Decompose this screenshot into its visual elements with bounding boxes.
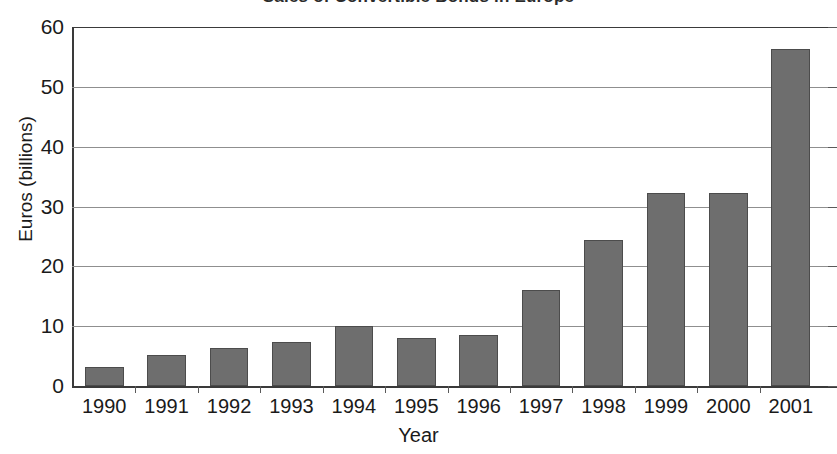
x-axis-tick-label: 1991 [135, 394, 197, 418]
x-axis-tick-label: 1996 [448, 394, 510, 418]
y-axis-tick-label: 30 [4, 196, 64, 217]
y-axis-tick-label: 10 [4, 315, 64, 336]
y-axis-tick-mark [828, 27, 837, 28]
y-axis-tick-mark [828, 87, 837, 88]
bar [147, 355, 186, 386]
y-axis-tick-mark [828, 326, 837, 327]
x-axis-tick-mark [635, 386, 636, 393]
x-axis-tick-label: 2001 [760, 394, 822, 418]
y-axis-tick-label: 0 [4, 375, 64, 396]
x-axis-tick-mark [135, 386, 136, 393]
x-axis-tick-mark [448, 386, 449, 393]
x-axis-tick-mark [760, 386, 761, 393]
bar [709, 193, 748, 386]
bar [522, 290, 561, 386]
x-axis-tick-label: 1997 [510, 394, 572, 418]
x-axis-tick-mark [198, 386, 199, 393]
bar-chart-figure: Sales of Convertible Bonds in Europe Eur… [0, 0, 837, 454]
y-axis-tick-label: 40 [4, 136, 64, 157]
x-axis-tick-mark [572, 386, 573, 393]
y-axis-tick-mark [828, 386, 837, 387]
bar [459, 335, 498, 386]
x-axis-tick-labels: 1990199119921993199419951996199719981999… [73, 394, 822, 422]
y-axis-tick-label: 60 [4, 16, 64, 37]
y-axis-tick-labels: 0102030405060 [0, 0, 64, 454]
bar [584, 240, 623, 386]
x-axis-tick-label: 2000 [697, 394, 759, 418]
chart-title: Sales of Convertible Bonds in Europe [0, 0, 837, 5]
bar [85, 367, 124, 386]
x-axis-tick-label: 1992 [198, 394, 260, 418]
bar [210, 348, 249, 386]
x-axis-tick-label: 1998 [572, 394, 634, 418]
x-axis-tick-mark [260, 386, 261, 393]
x-axis-tick-mark [697, 386, 698, 393]
y-axis-tick-mark [828, 266, 837, 267]
bar [397, 338, 436, 386]
x-axis-line [72, 386, 837, 388]
x-axis-tick-label: 1993 [260, 394, 322, 418]
x-axis-title: Year [0, 424, 837, 447]
y-axis-tick-mark [828, 207, 837, 208]
y-axis-tick-label: 50 [4, 76, 64, 97]
x-axis-tick-mark [385, 386, 386, 393]
x-axis-tick-label: 1995 [385, 394, 447, 418]
bars-layer [73, 27, 822, 386]
y-axis-tick-mark [828, 147, 837, 148]
bar [647, 193, 686, 386]
bar [771, 49, 810, 386]
x-axis-tick-label: 1999 [635, 394, 697, 418]
x-axis-tick-mark [510, 386, 511, 393]
bar [272, 342, 311, 386]
x-axis-tick-mark [323, 386, 324, 393]
x-axis-tick-label: 1990 [73, 394, 135, 418]
x-axis-tick-label: 1994 [323, 394, 385, 418]
y-axis-tick-label: 20 [4, 255, 64, 276]
bar [335, 326, 374, 386]
